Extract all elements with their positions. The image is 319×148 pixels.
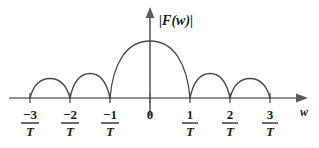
tick-label-pos2-denominator: T <box>226 124 235 139</box>
side-lobe-right-outer <box>230 79 270 99</box>
tick-label-pos1: 1 T <box>182 107 198 139</box>
tick-label-neg1: −1 T <box>101 107 119 139</box>
y-axis-label: |F(w)| <box>159 13 193 29</box>
tick-label-neg2-numerator: −2 <box>63 107 77 122</box>
origin-label: 0 <box>147 107 154 122</box>
tick-label-neg3-denominator: T <box>26 124 35 139</box>
tick-label-pos3-denominator: T <box>266 124 275 139</box>
tick-label-pos2-numerator: 2 <box>227 107 234 122</box>
x-axis-label: w <box>300 105 309 119</box>
tick-label-neg2: −2 T <box>61 107 79 139</box>
spectrum-figure: |F(w)| w −3 T −2 T −1 T 0 1 T 2 <box>0 0 319 148</box>
side-lobe-right-inner <box>190 74 230 99</box>
tick-label-pos3-numerator: 3 <box>267 107 274 122</box>
y-axis-arrow-icon <box>146 7 155 18</box>
side-lobe-left-outer <box>30 79 70 99</box>
x-axis-arrow-icon <box>296 94 308 103</box>
tick-label-pos1-denominator: T <box>186 124 195 139</box>
side-lobe-left-inner <box>70 74 110 99</box>
tick-label-pos1-numerator: 1 <box>187 107 194 122</box>
tick-label-zero: 0 <box>147 107 154 122</box>
tick-label-pos3: 3 T <box>262 107 278 139</box>
tick-label-neg3-numerator: −3 <box>23 107 37 122</box>
x-axis <box>9 94 308 103</box>
tick-label-neg3: −3 T <box>21 107 39 139</box>
tick-label-pos2: 2 T <box>222 107 238 139</box>
tick-label-neg1-numerator: −1 <box>103 107 117 122</box>
tick-label-neg2-denominator: T <box>66 124 75 139</box>
tick-label-neg1-denominator: T <box>106 124 115 139</box>
